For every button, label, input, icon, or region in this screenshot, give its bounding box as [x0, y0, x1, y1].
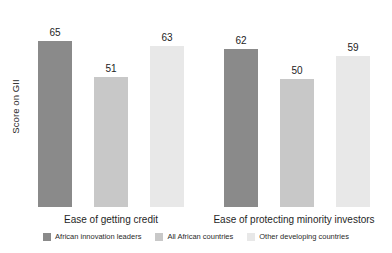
- legend-label: All African countries: [167, 232, 233, 241]
- legend: African innovation leaders All African c…: [0, 232, 392, 241]
- bar-rect[interactable]: [150, 46, 184, 207]
- bar-rect[interactable]: [38, 41, 72, 207]
- bar-rect[interactable]: [94, 77, 128, 207]
- bar-chart: Score on GII 65 51 63: [0, 0, 392, 253]
- y-axis-title: Score on GII: [0, 0, 30, 212]
- bar-item[interactable]: 59: [336, 0, 370, 207]
- bar-group-getting-credit: 65 51 63: [38, 0, 184, 207]
- bar-value-label: 65: [49, 27, 60, 38]
- legend-swatch-icon: [155, 233, 163, 241]
- x-axis-category-label: Ease of getting credit: [30, 214, 192, 226]
- bar-rect[interactable]: [336, 56, 370, 207]
- bar-rect[interactable]: [280, 79, 314, 207]
- bar-value-label: 62: [235, 35, 246, 46]
- bar-rect[interactable]: [224, 49, 258, 207]
- bar-item[interactable]: 62: [224, 0, 258, 207]
- bar-item[interactable]: 63: [150, 0, 184, 207]
- plot-area: 65 51 63 62 50: [30, 0, 392, 212]
- bar-item[interactable]: 50: [280, 0, 314, 207]
- legend-item-african-innovation-leaders[interactable]: African innovation leaders: [43, 232, 141, 241]
- bar-value-label: 51: [105, 63, 116, 74]
- bar-value-label: 59: [347, 42, 358, 53]
- bar-value-label: 63: [161, 32, 172, 43]
- legend-item-other-developing-countries[interactable]: Other developing countries: [247, 232, 349, 241]
- bar-value-label: 50: [291, 65, 302, 76]
- bar-item[interactable]: 51: [94, 0, 128, 207]
- bar-group-protecting-minority-investors: 62 50 59: [224, 0, 370, 207]
- legend-swatch-icon: [43, 233, 51, 241]
- legend-item-all-african-countries[interactable]: All African countries: [155, 232, 233, 241]
- x-axis-category-label: Ease of protecting minority investors: [196, 214, 392, 226]
- legend-label: African innovation leaders: [55, 232, 141, 241]
- legend-swatch-icon: [247, 233, 255, 241]
- bar-item[interactable]: 65: [38, 0, 72, 207]
- legend-label: Other developing countries: [259, 232, 349, 241]
- y-axis-title-text: Score on GII: [10, 79, 21, 134]
